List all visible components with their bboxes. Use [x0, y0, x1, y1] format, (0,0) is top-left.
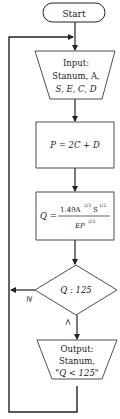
q-lhs: Q =	[40, 211, 57, 221]
q-numerator-exp1: 2/3	[84, 203, 91, 208]
p-formula: P = 2C + D	[49, 140, 100, 150]
process-q-block: Q = 1.49A 2/3 S 1/2 EP 2/3	[36, 192, 114, 240]
output-line-1: Output:	[60, 344, 93, 354]
start-label: Start	[62, 9, 85, 19]
input-line-2: Stanum, A,	[52, 71, 100, 81]
q-numerator: 1.49A	[60, 206, 82, 214]
input-block: Input: Stanum, A, S, E, C, D	[35, 51, 115, 99]
flowchart: Start Input: Stanum, A, S, E, C, D P = 2…	[0, 0, 120, 419]
q-numerator-exp2: 1/2	[99, 203, 106, 208]
start-terminal: Start	[43, 3, 105, 22]
branch-lt-label: <	[63, 318, 73, 326]
process-p-block: P = 2C + D	[36, 122, 114, 168]
decision-label: Q : 125	[60, 285, 91, 295]
input-line-3: S, E, C, D	[56, 84, 97, 94]
input-line-1: Input:	[63, 58, 89, 68]
q-denominator: EP	[74, 222, 85, 230]
q-numerator-s: S	[93, 206, 98, 214]
branch-ge-label: ≥	[25, 295, 35, 303]
decision-block: Q : 125	[35, 265, 117, 315]
q-denominator-exp: 2/3	[88, 219, 95, 224]
output-line-2: Stanum,	[59, 356, 95, 366]
output-block: Output: Stanum, "Q < 125"	[37, 340, 117, 379]
output-line-3: "Q < 125"	[55, 368, 99, 378]
